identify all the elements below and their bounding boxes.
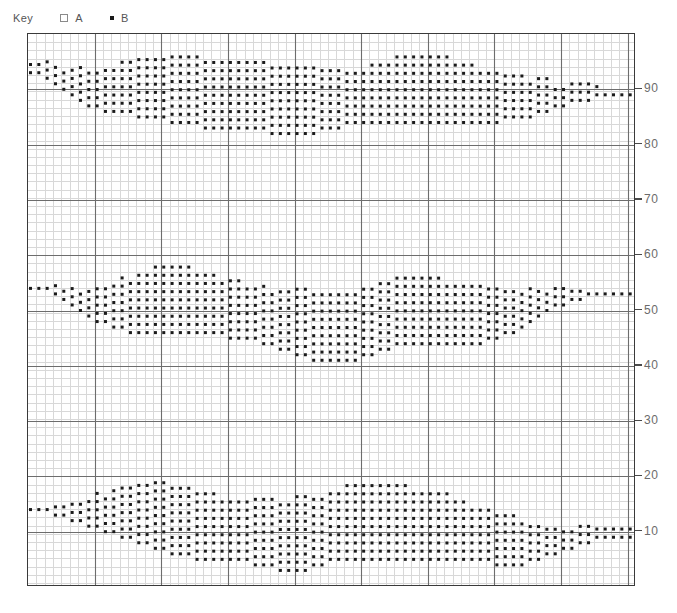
legend-entry-a: A xyxy=(60,12,83,24)
scatter-plot-area xyxy=(27,33,635,586)
y-axis-tick-label: 10 xyxy=(644,523,658,539)
legend-label-b: B xyxy=(121,12,129,24)
y-axis-tick-mark xyxy=(635,143,642,144)
grid-layer xyxy=(28,34,634,585)
y-axis-tick-mark xyxy=(635,530,642,531)
legend: Key A B xyxy=(13,10,129,26)
y-axis-tick-mark xyxy=(635,88,642,89)
y-axis-tick-label: 60 xyxy=(644,246,658,262)
y-axis-right: 908070605040302010 xyxy=(635,33,677,586)
y-axis-tick-mark xyxy=(635,254,642,255)
open-square-marker-icon xyxy=(60,14,68,22)
y-axis-tick-mark xyxy=(635,309,642,310)
y-axis-tick-label: 90 xyxy=(644,80,658,96)
y-axis-tick-label: 20 xyxy=(644,467,658,483)
legend-entry-b: B xyxy=(110,12,129,24)
y-axis-tick-mark xyxy=(635,198,642,199)
legend-title: Key xyxy=(13,12,33,24)
y-axis-tick-label: 30 xyxy=(644,412,658,428)
y-axis-tick-label: 40 xyxy=(644,357,658,373)
y-axis-tick-label: 80 xyxy=(644,136,658,152)
filled-dot-marker-icon xyxy=(110,16,114,20)
y-axis-tick-label: 50 xyxy=(644,302,658,318)
y-axis-tick-mark xyxy=(635,475,642,476)
legend-label-a: A xyxy=(75,12,83,24)
y-axis-tick-mark xyxy=(635,364,642,365)
y-axis-tick-label: 70 xyxy=(644,191,658,207)
y-axis-tick-mark xyxy=(635,420,642,421)
